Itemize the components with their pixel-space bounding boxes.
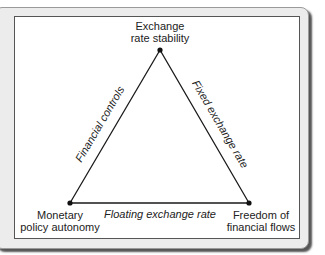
edge-label-right: Fixed exchange rate	[190, 78, 251, 170]
vertex-label-top: Exchange rate stability	[120, 20, 200, 44]
vertex-label-top-line1: Exchange	[120, 20, 200, 32]
vertex-dot-bottom-left	[67, 200, 72, 205]
vertex-label-bottom-left-line1: Monetary	[18, 209, 102, 221]
vertex-dot-top	[157, 47, 162, 52]
edge-label-bottom: Floating exchange rate	[104, 208, 216, 220]
vertex-label-top-line2: rate stability	[120, 32, 200, 44]
vertex-label-bottom-left-line2: policy autonomy	[18, 221, 102, 233]
vertex-label-bottom-right-line2: financial flows	[224, 221, 298, 233]
vertex-label-bottom-left: Monetary policy autonomy	[18, 209, 102, 233]
vertex-dot-bottom-right	[246, 200, 251, 205]
vertex-label-bottom-right-line1: Freedom of	[224, 209, 298, 221]
vertex-label-bottom-right: Freedom of financial flows	[224, 209, 298, 233]
